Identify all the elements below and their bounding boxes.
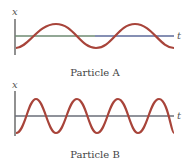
y-axis-label: x [12, 6, 18, 17]
caption: Particle B [70, 149, 119, 160]
panel-particle-b: x t Particle B [12, 79, 182, 160]
y-axis-label: x [12, 79, 18, 90]
x-axis-label: t [177, 110, 182, 121]
oscillation-diagram: x t Particle A x t Particle B [0, 0, 190, 168]
panel-particle-a: x t Particle A [12, 6, 182, 78]
x-axis-label: t [177, 30, 182, 41]
caption: Particle A [70, 67, 120, 78]
